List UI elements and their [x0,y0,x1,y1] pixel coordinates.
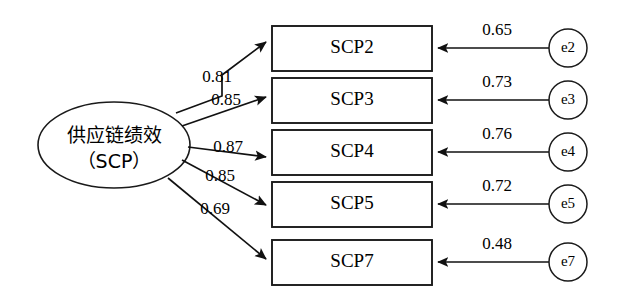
sem-canvas: 供应链绩效 （SCP） 0.81 0.85 0.87 0.85 0.69 SCP… [0,0,621,298]
indicator-node-scp3[interactable]: SCP3 [272,78,432,123]
error-label-e3: e3 [561,91,575,107]
error-weight-e3: 0.73 [482,72,512,91]
error-label-e4: e4 [561,143,576,159]
error-node-e7[interactable]: e7 [549,243,587,281]
error-node-e3[interactable]: e3 [549,81,587,119]
error-node-e2[interactable]: e2 [549,29,587,67]
latent-variable-scp[interactable]: 供应链绩效 （SCP） [38,102,190,188]
loading-weight-scp2: 0.81 [202,67,232,86]
loading-weight-scp3: 0.85 [211,90,241,109]
loading-weight-labels: 0.81 0.85 0.87 0.85 0.69 [200,67,243,218]
error-weight-e7: 0.48 [482,234,512,253]
indicator-node-scp5[interactable]: SCP5 [272,182,432,227]
error-weight-e2: 0.65 [482,20,512,39]
indicator-node-scp2[interactable]: SCP2 [272,26,432,71]
error-label-e5: e5 [561,195,575,211]
latent-label-line1: 供应链绩效 [67,124,162,146]
loading-weight-scp5: 0.85 [205,166,235,185]
error-label-e2: e2 [561,39,575,55]
error-label-e7: e7 [561,253,576,269]
indicator-label-scp5: SCP5 [330,192,373,213]
loading-path-scp7[interactable] [168,178,266,259]
latent-label-line2: （SCP） [77,150,152,172]
loading-weight-scp7: 0.69 [200,199,230,218]
loading-weight-scp4: 0.87 [213,137,243,156]
error-weight-labels: 0.65 0.73 0.76 0.72 0.48 [482,20,512,253]
error-circles: e2 e3 e4 e5 e7 [549,29,587,281]
indicator-boxes: SCP2 SCP3 SCP4 SCP5 SCP7 [272,26,432,285]
indicator-node-scp4[interactable]: SCP4 [272,130,432,175]
error-weight-e5: 0.72 [482,176,512,195]
indicator-label-scp7: SCP7 [330,250,373,271]
indicator-node-scp7[interactable]: SCP7 [272,240,432,285]
error-node-e4[interactable]: e4 [549,133,587,171]
sem-diagram: 供应链绩效 （SCP） 0.81 0.85 0.87 0.85 0.69 SCP… [0,0,621,298]
indicator-label-scp4: SCP4 [330,140,374,161]
error-weight-e4: 0.76 [482,124,512,143]
indicator-label-scp2: SCP2 [330,36,373,57]
error-node-e5[interactable]: e5 [549,185,587,223]
indicator-label-scp3: SCP3 [330,88,373,109]
